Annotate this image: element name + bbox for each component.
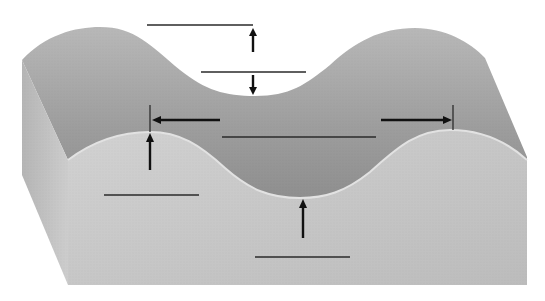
arrow-down-icon bbox=[249, 75, 257, 95]
arrow-up-icon bbox=[249, 28, 257, 52]
wave-block-diagram bbox=[0, 0, 545, 301]
